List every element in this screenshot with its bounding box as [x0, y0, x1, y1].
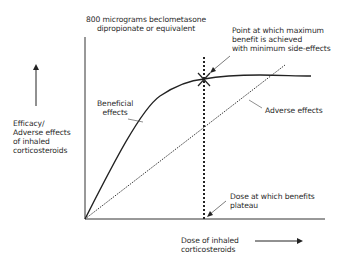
beneficial-leader [128, 119, 143, 122]
optimal-point-label: Point at which maximum benefit is achiev… [232, 26, 331, 53]
plateau-dose-label-line: Dose at which benefits [230, 192, 315, 201]
x-axis-arrow [255, 238, 303, 244]
beneficial-effects-label: Beneficial effects [97, 99, 133, 117]
optimal-point-label-line: Point at which maximum [232, 26, 331, 35]
adverse-leader [249, 100, 262, 108]
beneficial-effects-label-line: Beneficial [97, 99, 133, 108]
x-axis-label: Dose of inhaled corticosteroids [181, 236, 239, 254]
x-axis-label-line: corticosteroids [181, 245, 239, 254]
top-dose-label-line: dipropionate or equivalent [86, 24, 206, 33]
y-axis-label-line: Efficacy/ [13, 119, 71, 128]
plateau-arrow [207, 201, 226, 217]
adverse-effects-label: Adverse effects [265, 106, 323, 115]
optimal-point-label-line: with minimum side-effects [232, 44, 331, 53]
y-axis-label: Efficacy/ Adverse effects of inhaled cor… [13, 119, 71, 155]
plateau-dose-label: Dose at which benefits plateau [230, 192, 315, 210]
y-axis-label-line: Adverse effects [13, 128, 71, 137]
top-dose-label: 800 micrograms beclometasone dipropionat… [86, 15, 206, 33]
plateau-dose-label-line: plateau [230, 201, 315, 210]
y-axis-label-line: of inhaled [13, 137, 71, 146]
point-arrow [210, 56, 230, 73]
y-axis-label-line: corticosteroids [13, 146, 71, 155]
beneficial-effects-label-line: effects [97, 108, 133, 117]
top-dose-label-line: 800 micrograms beclometasone [86, 15, 206, 24]
y-axis-arrow [33, 64, 39, 106]
optimal-point-label-line: benefit is achieved [232, 35, 331, 44]
x-axis-label-line: Dose of inhaled [181, 236, 239, 245]
